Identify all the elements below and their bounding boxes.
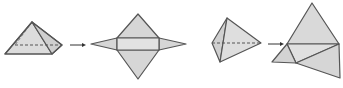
figure <box>0 0 343 88</box>
square-pyramid <box>5 22 62 54</box>
triangular-pyramid-net <box>272 3 340 78</box>
square-pyramid-net <box>91 14 186 79</box>
arrow-1 <box>70 43 86 47</box>
triangular-pyramid <box>212 18 261 62</box>
arrow-2 <box>268 42 284 46</box>
